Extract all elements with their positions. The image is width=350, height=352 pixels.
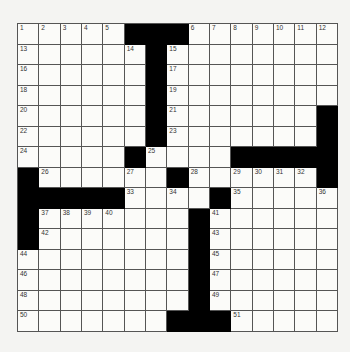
- answer-cell[interactable]: [189, 147, 210, 168]
- answer-cell[interactable]: [82, 86, 103, 107]
- answer-cell[interactable]: [103, 45, 124, 66]
- answer-cell[interactable]: [146, 188, 167, 209]
- answer-cell[interactable]: 1: [18, 24, 39, 45]
- answer-cell[interactable]: [295, 291, 316, 312]
- answer-cell[interactable]: 29: [231, 168, 252, 189]
- answer-cell[interactable]: [317, 250, 338, 271]
- answer-cell[interactable]: [295, 106, 316, 127]
- answer-cell[interactable]: [274, 291, 295, 312]
- answer-cell[interactable]: [82, 270, 103, 291]
- answer-cell[interactable]: [125, 229, 146, 250]
- answer-cell[interactable]: [39, 311, 60, 332]
- answer-cell[interactable]: [295, 45, 316, 66]
- answer-cell[interactable]: [253, 311, 274, 332]
- answer-cell[interactable]: 37: [39, 209, 60, 230]
- answer-cell[interactable]: [103, 168, 124, 189]
- answer-cell[interactable]: [231, 250, 252, 271]
- answer-cell[interactable]: [295, 209, 316, 230]
- answer-cell[interactable]: [274, 250, 295, 271]
- answer-cell[interactable]: [317, 65, 338, 86]
- answer-cell[interactable]: 28: [189, 168, 210, 189]
- answer-cell[interactable]: 36: [317, 188, 338, 209]
- answer-cell[interactable]: 51: [231, 311, 252, 332]
- answer-cell[interactable]: [295, 311, 316, 332]
- answer-cell[interactable]: [317, 209, 338, 230]
- answer-cell[interactable]: [253, 250, 274, 271]
- answer-cell[interactable]: 22: [18, 127, 39, 148]
- answer-cell[interactable]: [146, 291, 167, 312]
- answer-cell[interactable]: [274, 45, 295, 66]
- answer-cell[interactable]: [103, 106, 124, 127]
- answer-cell[interactable]: [146, 168, 167, 189]
- answer-cell[interactable]: [82, 106, 103, 127]
- answer-cell[interactable]: [39, 65, 60, 86]
- answer-cell[interactable]: [317, 229, 338, 250]
- answer-cell[interactable]: [189, 65, 210, 86]
- answer-cell[interactable]: 32: [295, 168, 316, 189]
- answer-cell[interactable]: [39, 291, 60, 312]
- answer-cell[interactable]: [274, 229, 295, 250]
- answer-cell[interactable]: [103, 311, 124, 332]
- answer-cell[interactable]: [231, 127, 252, 148]
- answer-cell[interactable]: 13: [18, 45, 39, 66]
- answer-cell[interactable]: [167, 250, 188, 271]
- answer-cell[interactable]: [295, 65, 316, 86]
- answer-cell[interactable]: 30: [253, 168, 274, 189]
- answer-cell[interactable]: 14: [125, 45, 146, 66]
- answer-cell[interactable]: [253, 209, 274, 230]
- answer-cell[interactable]: [189, 86, 210, 107]
- answer-cell[interactable]: [82, 45, 103, 66]
- answer-cell[interactable]: 39: [82, 209, 103, 230]
- answer-cell[interactable]: [317, 291, 338, 312]
- answer-cell[interactable]: 44: [18, 250, 39, 271]
- answer-cell[interactable]: [189, 188, 210, 209]
- answer-cell[interactable]: 26: [39, 168, 60, 189]
- answer-cell[interactable]: 50: [18, 311, 39, 332]
- answer-cell[interactable]: [103, 127, 124, 148]
- answer-cell[interactable]: [295, 127, 316, 148]
- answer-cell[interactable]: 7: [210, 24, 231, 45]
- answer-cell[interactable]: 15: [167, 45, 188, 66]
- answer-cell[interactable]: [103, 291, 124, 312]
- answer-cell[interactable]: 48: [18, 291, 39, 312]
- answer-cell[interactable]: [231, 229, 252, 250]
- answer-cell[interactable]: 2: [39, 24, 60, 45]
- answer-cell[interactable]: [253, 127, 274, 148]
- answer-cell[interactable]: [167, 209, 188, 230]
- answer-cell[interactable]: [39, 127, 60, 148]
- answer-cell[interactable]: [274, 188, 295, 209]
- answer-cell[interactable]: [231, 106, 252, 127]
- answer-cell[interactable]: [82, 65, 103, 86]
- answer-cell[interactable]: [253, 45, 274, 66]
- answer-cell[interactable]: [82, 311, 103, 332]
- answer-cell[interactable]: 34: [167, 188, 188, 209]
- answer-cell[interactable]: 6: [189, 24, 210, 45]
- answer-cell[interactable]: [125, 65, 146, 86]
- answer-cell[interactable]: [274, 270, 295, 291]
- answer-cell[interactable]: [103, 65, 124, 86]
- answer-cell[interactable]: [253, 188, 274, 209]
- answer-cell[interactable]: [61, 229, 82, 250]
- answer-cell[interactable]: [189, 127, 210, 148]
- answer-cell[interactable]: [125, 250, 146, 271]
- answer-cell[interactable]: [167, 147, 188, 168]
- answer-cell[interactable]: [61, 270, 82, 291]
- answer-cell[interactable]: 42: [39, 229, 60, 250]
- answer-cell[interactable]: [125, 270, 146, 291]
- answer-cell[interactable]: [39, 270, 60, 291]
- answer-cell[interactable]: [61, 86, 82, 107]
- answer-cell[interactable]: 5: [103, 24, 124, 45]
- answer-cell[interactable]: [295, 86, 316, 107]
- answer-cell[interactable]: 16: [18, 65, 39, 86]
- answer-cell[interactable]: [125, 209, 146, 230]
- answer-cell[interactable]: [231, 291, 252, 312]
- answer-cell[interactable]: [167, 291, 188, 312]
- answer-cell[interactable]: [274, 209, 295, 230]
- answer-cell[interactable]: 3: [61, 24, 82, 45]
- answer-cell[interactable]: 9: [253, 24, 274, 45]
- answer-cell[interactable]: 43: [210, 229, 231, 250]
- answer-cell[interactable]: [125, 127, 146, 148]
- answer-cell[interactable]: 27: [125, 168, 146, 189]
- answer-cell[interactable]: [253, 270, 274, 291]
- answer-cell[interactable]: 12: [317, 24, 338, 45]
